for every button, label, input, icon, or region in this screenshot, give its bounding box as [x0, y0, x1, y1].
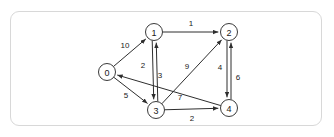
edge-weight-1-2: 1 — [189, 19, 194, 28]
edge-weight-3-4: 2 — [190, 114, 195, 123]
edge-weight-3-2: 9 — [185, 62, 190, 71]
graph-diagram: 01234 10123527946 — [0, 0, 334, 137]
edge-3-to-2 — [162, 40, 222, 104]
edge-weight-2-4: 6 — [236, 73, 241, 82]
graph-node-1[interactable]: 1 — [146, 24, 163, 41]
graph-node-3[interactable]: 3 — [148, 102, 165, 119]
graph-node-0[interactable]: 0 — [99, 64, 116, 81]
node-label-3: 3 — [153, 106, 158, 116]
edge-1-to-3 — [152, 41, 154, 100]
edge-weight-3-1: 2 — [141, 61, 146, 70]
edge-4-to-0 — [117, 75, 221, 106]
node-label-4: 4 — [226, 104, 231, 114]
edge-3-to-4 — [164, 108, 218, 109]
edge-weight-0-3: 5 — [124, 91, 129, 100]
edge-weight-0-1: 10 — [121, 41, 130, 50]
edge-weight-4-0: 7 — [178, 93, 183, 102]
screenshot-root: 01234 10123527946 — [0, 0, 334, 137]
graph-node-4[interactable]: 4 — [221, 100, 238, 117]
edges-layer — [113, 32, 231, 110]
edge-weight-4-2: 4 — [218, 63, 223, 72]
node-label-1: 1 — [151, 28, 156, 38]
graph-node-2[interactable]: 2 — [221, 24, 238, 41]
edge-weight-1-3: 3 — [158, 71, 163, 80]
node-label-2: 2 — [226, 28, 231, 38]
edge-0-to-3 — [114, 77, 148, 103]
node-label-0: 0 — [104, 68, 109, 78]
